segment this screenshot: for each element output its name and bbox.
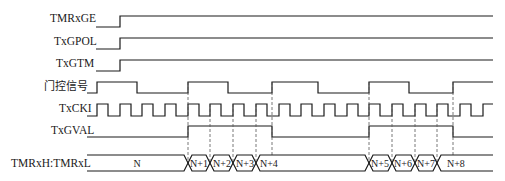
label-tmrxge: TMRxGE	[50, 12, 96, 24]
bus-value-n1: N+1	[190, 158, 208, 169]
label-txgval: TxGVAL	[51, 124, 94, 136]
label-txgpol: TxGPOL	[54, 35, 97, 47]
waveform-txgpol	[96, 38, 493, 49]
waveform-txgtm	[96, 60, 493, 71]
bus-value-n5: N+5	[371, 158, 389, 169]
bus-value-n4: N+4	[260, 158, 278, 169]
waveform-txcki	[87, 104, 493, 116]
bus-value-n8: N+8	[447, 158, 465, 169]
label-gate-signal: 门控信号	[44, 79, 88, 93]
label-txgtm: TxGTM	[56, 57, 94, 69]
label-counter-bus: TMRxH:TMRxL	[11, 157, 91, 169]
bus-value-n: N	[133, 158, 140, 169]
bus-value-n6: N+6	[394, 158, 412, 169]
label-txcki: TxCKI	[59, 102, 92, 114]
bus-value-n3: N+3	[236, 158, 254, 169]
bus-value-n2: N+2	[213, 158, 231, 169]
waveform-tmrxge	[96, 16, 493, 27]
dashed-guides	[188, 82, 453, 163]
waveform-txgval	[87, 126, 493, 137]
bus-value-n7: N+7	[417, 158, 435, 169]
waveform-gate-signal	[87, 82, 493, 93]
timing-diagram: TMRxGE TxGPOL TxGTM 门控信号 TxCKI TxGVAL TM…	[0, 0, 505, 181]
